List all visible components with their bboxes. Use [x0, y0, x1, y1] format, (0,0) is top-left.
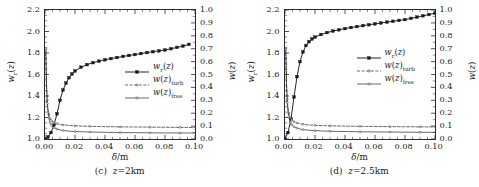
legend-entry: w(z)turb	[356, 60, 416, 71]
y-right-tick: 0.4	[200, 82, 213, 90]
y-left-tick: 2.0	[27, 27, 40, 35]
y-right-tick: 0.6	[440, 57, 453, 65]
x-tick: 0.02	[65, 142, 83, 150]
y-left-tick: 2.2	[27, 5, 40, 13]
panel-c-y-right-ticklabels: 0.00.10.20.30.40.50.60.70.80.91.0	[198, 0, 228, 187]
legend-label: w(z)free	[153, 87, 183, 99]
legend-line-sample-icon	[356, 48, 382, 58]
panel-d-y-left-title: wr(z)	[246, 52, 258, 92]
x-tick: 0.04	[95, 142, 113, 150]
legend-line-sample-icon	[356, 61, 382, 71]
y-left-tick: 2.2	[266, 5, 279, 13]
figure-two-panel-plot: 1.01.21.41.61.82.02.2 0.00.10.20.30.40.5…	[0, 0, 479, 187]
panel-c-legend: wr(z)w(z)turbw(z)free	[124, 61, 184, 98]
legend-entry: w(z)free	[124, 87, 184, 98]
x-tick: 0.02	[304, 142, 322, 150]
y-right-tick: 0.2	[200, 108, 213, 116]
panel-d-y-right-title: w(z)	[467, 51, 477, 91]
y-right-tick: 0.9	[200, 18, 213, 26]
legend-entry: w(z)free	[356, 73, 416, 84]
y-right-tick: 0.9	[440, 18, 453, 26]
panel-d: 1.01.21.41.61.82.02.2 0.00.10.20.30.40.5…	[240, 0, 479, 187]
x-tick: 0.04	[334, 142, 352, 150]
x-tick: 0.00	[274, 142, 292, 150]
legend-line-sample-icon	[124, 88, 150, 98]
y-left-tick: 1.6	[27, 70, 40, 78]
x-tick: 0.06	[125, 142, 143, 150]
x-tick: 0.06	[364, 142, 382, 150]
legend-line-sample-icon	[124, 62, 150, 72]
panel-c: 1.01.21.41.61.82.02.2 0.00.10.20.30.40.5…	[0, 0, 240, 187]
legend-label: wr(z)	[153, 61, 174, 73]
y-left-tick: 1.6	[266, 70, 279, 78]
y-right-tick: 0.5	[440, 70, 453, 78]
y-left-tick: 1.8	[27, 48, 40, 56]
legend-entry: w(z)turb	[124, 74, 184, 85]
legend-line-sample-icon	[124, 75, 150, 85]
y-right-tick: 0.4	[440, 82, 453, 90]
legend-label: wr(z)	[385, 47, 406, 59]
legend-label: w(z)free	[385, 73, 415, 85]
y-right-tick: 0.8	[440, 31, 453, 39]
y-right-tick: 0.1	[440, 121, 453, 129]
legend-label: w(z)turb	[153, 74, 184, 86]
panel-d-caption: (d) z=2.5km	[240, 166, 479, 176]
y-left-tick: 1.4	[266, 91, 279, 99]
panel-d-y-right-ticklabels: 0.00.10.20.30.40.50.60.70.80.91.0	[438, 0, 468, 187]
panel-c-caption: (c) z=2km	[0, 166, 240, 176]
y-right-tick: 0.3	[200, 95, 213, 103]
panel-d-x-title: δ/m	[284, 152, 436, 162]
y-right-tick: 0.7	[440, 44, 453, 52]
y-left-tick: 1.2	[27, 113, 40, 121]
y-left-tick: 1.8	[266, 48, 279, 56]
y-right-tick: 0.2	[440, 108, 453, 116]
y-left-tick: 1.2	[266, 113, 279, 121]
x-tick: 0.10	[424, 142, 442, 150]
x-tick: 0.08	[155, 142, 173, 150]
legend-entry: wr(z)	[356, 47, 416, 58]
y-right-tick: 1.0	[200, 5, 213, 13]
panel-d-legend: wr(z)w(z)turbw(z)free	[356, 47, 416, 84]
panel-c-x-title: δ/m	[44, 152, 196, 162]
legend-entry: wr(z)	[124, 61, 184, 72]
x-tick: 0.08	[394, 142, 412, 150]
y-left-tick: 1.4	[27, 91, 40, 99]
y-right-tick: 0.6	[200, 57, 213, 65]
panel-c-y-right-title: w(z)	[227, 51, 237, 91]
legend-label: w(z)turb	[385, 60, 416, 72]
x-tick: 0.10	[185, 142, 203, 150]
x-tick: 0.00	[35, 142, 53, 150]
legend-line-sample-icon	[356, 74, 382, 84]
y-right-tick: 1.0	[440, 5, 453, 13]
y-right-tick: 0.3	[440, 95, 453, 103]
y-right-tick: 0.8	[200, 31, 213, 39]
panel-c-y-left-ticklabels: 1.01.21.41.61.82.02.2	[0, 0, 41, 187]
panel-d-y-left-ticklabels: 1.01.21.41.61.82.02.2	[240, 0, 281, 187]
y-right-tick: 0.5	[200, 70, 213, 78]
y-right-tick: 0.7	[200, 44, 213, 52]
y-right-tick: 0.1	[200, 121, 213, 129]
y-left-tick: 2.0	[266, 27, 279, 35]
panel-c-y-left-title: wr(z)	[6, 52, 18, 92]
